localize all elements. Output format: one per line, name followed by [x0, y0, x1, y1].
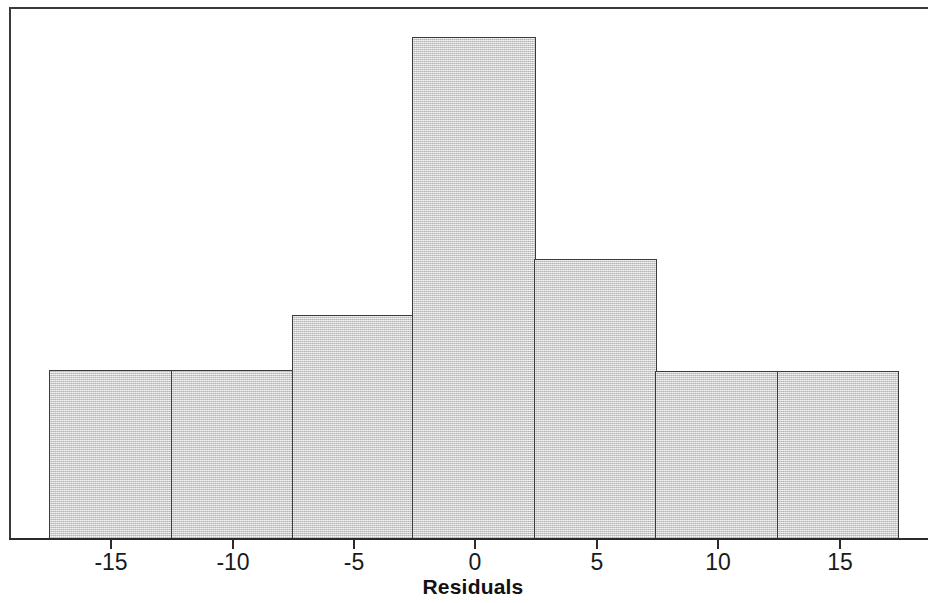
histogram-bar	[534, 259, 657, 540]
x-axis-tick	[110, 540, 112, 549]
histogram-bar	[292, 315, 414, 540]
x-axis-title: Residuals	[0, 575, 928, 599]
histogram-bar	[171, 370, 294, 540]
x-axis-tick	[596, 540, 598, 549]
histogram-figure: -15 -10 -5 0 5 10 15 Residuals	[0, 0, 928, 603]
histogram-bar	[412, 37, 536, 540]
x-axis-tick-label: 0	[445, 549, 505, 575]
x-axis-tick-label: -15	[81, 549, 141, 575]
x-axis-tick	[232, 540, 234, 549]
x-axis-tick	[474, 540, 476, 549]
histogram-bar	[777, 371, 899, 540]
x-axis-line	[9, 538, 928, 540]
x-axis-tick	[353, 540, 355, 549]
x-axis-tick-label: -5	[324, 549, 384, 575]
x-axis-tick	[717, 540, 719, 549]
x-axis-tick	[839, 540, 841, 549]
x-axis-tick-label: 10	[688, 549, 748, 575]
x-axis-title-text: Residuals	[422, 575, 523, 598]
histogram-bar	[655, 371, 778, 540]
histogram-bar	[49, 370, 172, 540]
histogram-bars	[0, 0, 928, 603]
x-axis-tick-label: 5	[567, 549, 627, 575]
x-axis-tick-label: -10	[203, 549, 263, 575]
x-axis-tick-label: 15	[810, 549, 870, 575]
